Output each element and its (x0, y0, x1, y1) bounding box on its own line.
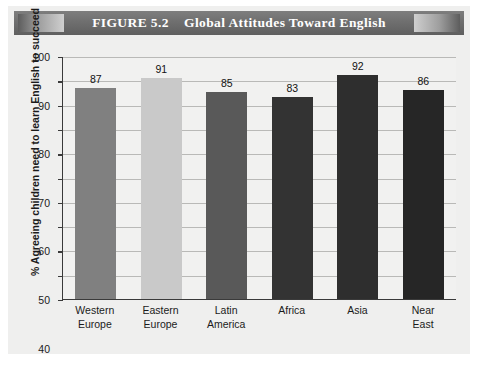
y-axis-tick-label: 50 (38, 294, 50, 306)
bar-value-label: 87 (90, 73, 102, 85)
y-axis-tick-label: 80 (38, 148, 50, 160)
category-label-line: Europe (128, 317, 193, 331)
bar: 86 (403, 90, 444, 299)
bar: 92 (337, 75, 378, 299)
category-label-line: Asia (325, 303, 390, 317)
category-label-line: Eastern (128, 303, 193, 317)
x-axis-category-label: EasternEurope (128, 303, 193, 331)
x-axis-category-label: WesternEurope (62, 303, 127, 331)
bar-value-label: 86 (417, 75, 429, 87)
bar-slot: 87 (63, 57, 128, 299)
bar-slot: 92 (325, 57, 390, 299)
bar: 91 (141, 78, 182, 299)
x-axis-category-label: Asia (325, 303, 390, 331)
figure-title: FIGURE 5.2 Global Attitudes Toward Engli… (14, 11, 464, 35)
bar: 87 (75, 88, 116, 299)
category-label-line: Latin (193, 303, 258, 317)
bar-slot: 91 (129, 57, 194, 299)
category-label-line: Western (62, 303, 127, 317)
bar-value-label: 83 (286, 82, 298, 94)
x-axis-category-label: NearEast (390, 303, 455, 331)
bar-slot: 85 (194, 57, 259, 299)
category-label-line: East (390, 317, 455, 331)
bars-group: 879185839286 (63, 57, 456, 299)
chart-area: % Agreeing children need to learn Englis… (14, 45, 464, 345)
category-label-line: America (193, 317, 258, 331)
bar-slot: 83 (260, 57, 325, 299)
figure-title-bar: FIGURE 5.2 Global Attitudes Toward Engli… (14, 11, 464, 35)
plot-area: 0102030405060708090100 879185839286 (62, 57, 456, 300)
y-axis-tick: 0 (58, 300, 63, 301)
category-label-line: Europe (62, 317, 127, 331)
y-axis-tick-label: 100 (32, 51, 50, 63)
x-axis-category-label: Africa (259, 303, 324, 331)
x-axis-category-labels: WesternEuropeEasternEuropeLatinAmericaAf… (62, 303, 456, 331)
bar-value-label: 91 (155, 63, 167, 75)
category-label-line: Africa (259, 303, 324, 317)
bar-value-label: 85 (221, 77, 233, 89)
bar-slot: 86 (391, 57, 456, 299)
figure-root: FIGURE 5.2 Global Attitudes Toward Engli… (0, 0, 478, 367)
y-axis-tick-label: 40 (38, 343, 50, 355)
y-axis-tick-label: 60 (38, 245, 50, 257)
category-label-line: Near (390, 303, 455, 317)
x-axis-category-label: LatinAmerica (193, 303, 258, 331)
y-axis-tick-label: 90 (38, 100, 50, 112)
bar: 85 (206, 92, 247, 299)
bar: 83 (272, 97, 313, 299)
bar-value-label: 92 (352, 60, 364, 72)
y-axis-tick-label: 70 (38, 197, 50, 209)
